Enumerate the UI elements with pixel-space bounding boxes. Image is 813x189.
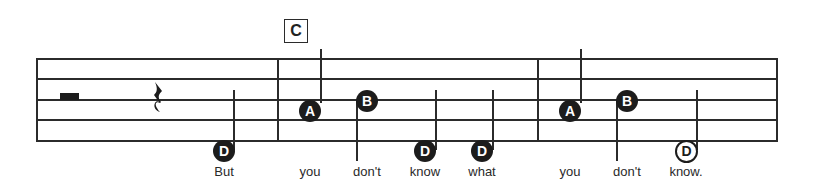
lyric: you: [300, 164, 321, 179]
lyric: what: [468, 164, 495, 179]
note-stem: [580, 49, 582, 103]
lyric: you: [560, 164, 581, 179]
staff-line-1: [37, 58, 778, 60]
lyric: But: [214, 164, 234, 179]
note-d: D: [471, 140, 493, 162]
staff-line-5: [37, 140, 778, 142]
note-stem: [320, 49, 322, 103]
note-b: B: [356, 90, 378, 112]
note-a: A: [559, 100, 581, 122]
note-a: A: [299, 100, 321, 122]
note-stem: [233, 90, 235, 150]
lyric: don't: [353, 164, 381, 179]
note-stem: [435, 90, 437, 150]
note-b: B: [616, 90, 638, 112]
lyric: know.: [669, 164, 702, 179]
note-stem: [356, 101, 358, 161]
note-stem: [616, 101, 618, 161]
lyric: know: [410, 164, 440, 179]
note-stem: [492, 90, 494, 150]
barline-end: [776, 58, 778, 142]
rehearsal-mark: C: [284, 19, 308, 43]
staff-line-2: [37, 78, 778, 80]
barline-start: [36, 58, 38, 142]
note-d: D: [213, 140, 235, 162]
staff-line-4: [37, 119, 778, 121]
barline-1: [277, 58, 279, 142]
note-stem: [696, 90, 698, 150]
half-rest-icon: [60, 93, 79, 100]
barline-2: [537, 58, 539, 142]
staff-line-3: [37, 99, 778, 101]
note-d-half: D: [675, 140, 698, 163]
note-d: D: [414, 140, 436, 162]
quarter-rest-icon: [152, 81, 166, 117]
lyric: don't: [613, 164, 641, 179]
